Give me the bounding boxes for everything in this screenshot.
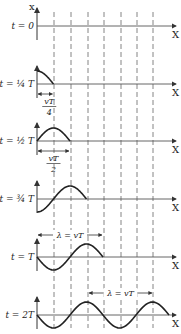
snapshot-row: Xt = Tλ = vT xyxy=(11,230,180,271)
time-label: t = ¾ T xyxy=(0,194,35,204)
extent-numerator: vT xyxy=(49,154,60,163)
extent-denominator: 4 xyxy=(46,108,52,117)
wave-curve xyxy=(37,128,70,141)
snapshot-row: Xxt = 0 xyxy=(11,1,180,40)
y-axis-label: x xyxy=(29,1,35,12)
wavelength-label: λ = vT xyxy=(56,231,84,240)
time-label: t = T xyxy=(11,252,35,262)
time-label: t = 0 xyxy=(11,21,34,31)
x-axis-label: X xyxy=(172,29,180,40)
x-axis-label: X xyxy=(172,144,180,155)
snapshot-row: Xt = 2Tλ = vT xyxy=(5,288,180,329)
time-label: t = 2T xyxy=(5,310,35,320)
wavelength-label: λ = vT xyxy=(106,289,134,298)
extent-denominator: 2 xyxy=(50,165,56,174)
x-axis-label: X xyxy=(172,318,180,329)
x-axis-label: X xyxy=(172,260,180,271)
time-label: t = ½ T xyxy=(0,136,35,146)
x-axis-label: X xyxy=(172,87,180,98)
dashed-guide-lines xyxy=(54,12,153,328)
extent-numerator: vT xyxy=(44,97,55,106)
time-label: t = ¼ T xyxy=(0,79,35,89)
wave-curve xyxy=(37,71,54,84)
wave-propagation-diagram: Xxt = 0Xt = ¼ TvT4Xt = ½ TvT2Xt = ¾ TXt … xyxy=(0,0,181,334)
x-axis-label: X xyxy=(172,202,180,213)
